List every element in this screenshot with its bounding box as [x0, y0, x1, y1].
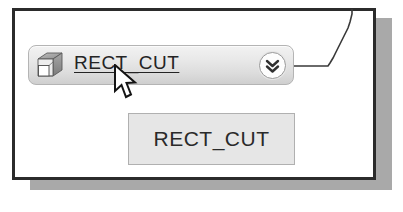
feature-item-rect-cut[interactable]: RECT_CUT	[28, 45, 294, 85]
feature-item-label[interactable]: RECT_CUT	[74, 52, 179, 74]
double-chevron-down-button[interactable]	[259, 52, 286, 79]
tooltip-text: RECT_CUT	[153, 127, 269, 151]
3d-box-cut-icon	[35, 51, 65, 81]
screenshot-root: RECT_CUT RECT_CUT	[0, 0, 403, 212]
tooltip: RECT_CUT	[128, 113, 295, 165]
feature-item-content: RECT_CUT	[29, 46, 293, 84]
double-chevron-down-icon	[260, 53, 285, 78]
